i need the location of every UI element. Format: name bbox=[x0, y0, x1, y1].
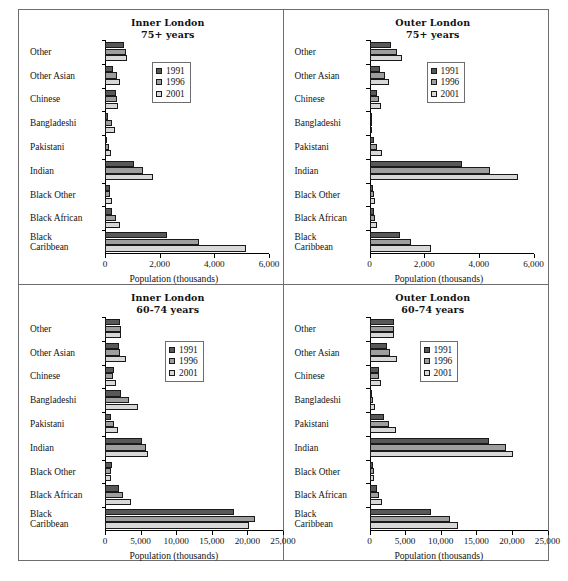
panel-title-region: Inner London bbox=[131, 292, 205, 303]
bar-1991 bbox=[105, 90, 116, 96]
bar-1991 bbox=[370, 185, 374, 191]
bar-1991 bbox=[370, 161, 463, 167]
bar-1996 bbox=[370, 397, 374, 403]
category-label: Other bbox=[30, 324, 105, 334]
bar-1991 bbox=[105, 462, 112, 468]
bar-1991 bbox=[370, 343, 387, 349]
category-label: Pakistani bbox=[30, 419, 105, 429]
bar-1991 bbox=[105, 485, 119, 491]
legend-item-1996: 1996 bbox=[424, 356, 453, 368]
legend-item-1991: 1991 bbox=[431, 65, 460, 77]
bar-2001 bbox=[105, 79, 120, 85]
legend-label: 1996 bbox=[179, 356, 198, 366]
bar-1996 bbox=[370, 49, 398, 55]
y-axis-tick bbox=[366, 507, 370, 508]
figure-container: Inner London75+ yearsOtherOther AsianChi… bbox=[0, 0, 568, 581]
y-axis-tick bbox=[366, 135, 370, 136]
bar-1996 bbox=[370, 120, 372, 126]
y-axis-tick bbox=[366, 460, 370, 461]
x-axis-tick-label: 20,000 bbox=[499, 536, 524, 546]
y-axis-tick bbox=[366, 111, 370, 112]
panel-title: Inner London75+ years bbox=[19, 17, 283, 41]
category-label: Pakistani bbox=[295, 142, 370, 152]
category-label: Other Asian bbox=[30, 71, 105, 81]
bar-1996 bbox=[105, 516, 255, 522]
category-label: Other bbox=[295, 47, 370, 57]
bar-1991 bbox=[105, 414, 111, 420]
bar-1996 bbox=[105, 444, 146, 450]
bar-2001 bbox=[105, 103, 118, 109]
x-axis-tick-label: 20,000 bbox=[235, 536, 260, 546]
x-axis-tick bbox=[247, 531, 248, 535]
category-label: Chinese bbox=[295, 94, 370, 104]
panel-title-agegroup: 60-74 years bbox=[318, 304, 549, 316]
legend: 199119962001 bbox=[420, 341, 459, 382]
category-label: Indian bbox=[295, 443, 370, 453]
legend-swatch-icon bbox=[169, 358, 175, 364]
bar-1996 bbox=[105, 239, 199, 245]
panel-title: Inner London60-74 years bbox=[19, 292, 283, 316]
category-label: Black Other bbox=[30, 467, 105, 477]
bar-1996 bbox=[105, 326, 121, 332]
bar-1996 bbox=[370, 516, 450, 522]
category-label: Black Other bbox=[30, 190, 105, 200]
bar-1991 bbox=[370, 390, 373, 396]
bar-1991 bbox=[370, 414, 385, 420]
bar-1991 bbox=[105, 367, 114, 373]
bar-1991 bbox=[370, 232, 400, 238]
bar-2001 bbox=[105, 245, 246, 251]
bar-2001 bbox=[370, 103, 381, 109]
panel-title-agegroup: 60-74 years bbox=[53, 304, 283, 316]
legend-label: 1996 bbox=[434, 356, 453, 366]
bar-1991 bbox=[105, 509, 234, 515]
x-axis-tick bbox=[548, 531, 549, 535]
bar-2001 bbox=[370, 451, 514, 457]
panel-inner-london-75plus: Inner London75+ yearsOtherOther AsianChi… bbox=[19, 10, 284, 285]
x-axis-tick-label: 10,000 bbox=[164, 536, 189, 546]
bar-2001 bbox=[370, 404, 376, 410]
y-axis-tick bbox=[366, 230, 370, 231]
y-axis-tick bbox=[102, 341, 106, 342]
y-axis-tick bbox=[102, 88, 106, 89]
legend-swatch-icon bbox=[169, 370, 175, 376]
bar-2001 bbox=[105, 150, 111, 156]
chart-grid: Inner London75+ yearsOtherOther AsianChi… bbox=[18, 9, 549, 561]
category-label: Other bbox=[295, 324, 370, 334]
x-axis-tick-label: 0 bbox=[367, 259, 372, 269]
legend-swatch-icon bbox=[424, 358, 430, 364]
category-label: Chinese bbox=[295, 371, 370, 381]
bar-1991 bbox=[370, 319, 395, 325]
legend-label: 1991 bbox=[434, 345, 453, 355]
category-label: Indian bbox=[295, 166, 370, 176]
x-axis-tick-label: 5,000 bbox=[130, 536, 151, 546]
x-axis-tick-label: 5,000 bbox=[395, 536, 416, 546]
legend-item-1996: 1996 bbox=[431, 77, 460, 89]
bar-2001 bbox=[105, 332, 121, 338]
bar-2001 bbox=[105, 380, 116, 386]
bar-1991 bbox=[370, 90, 377, 96]
panel-inner-london-60-74: Inner London60-74 yearsOtherOther AsianC… bbox=[19, 285, 284, 560]
bar-2001 bbox=[105, 522, 249, 528]
x-axis-tick bbox=[105, 254, 106, 258]
legend-label: 2001 bbox=[179, 368, 198, 378]
x-axis-tick bbox=[214, 254, 215, 258]
category-label: Chinese bbox=[30, 94, 105, 104]
legend-swatch-icon bbox=[431, 91, 437, 97]
x-axis-tick-label: 6,000 bbox=[259, 259, 280, 269]
bar-1996 bbox=[370, 72, 386, 78]
x-axis-tick bbox=[479, 254, 480, 258]
bar-2001 bbox=[370, 475, 375, 481]
legend-swatch-icon bbox=[424, 370, 430, 376]
legend-item-1996: 1996 bbox=[169, 356, 198, 368]
bar-1996 bbox=[370, 215, 375, 221]
bar-1991 bbox=[370, 462, 374, 468]
bar-1996 bbox=[105, 397, 129, 403]
panel-outer-london-75plus: Outer London75+ yearsOtherOther AsianChi… bbox=[284, 10, 549, 285]
bar-1991 bbox=[370, 208, 375, 214]
y-axis-tick bbox=[102, 135, 106, 136]
y-axis-tick bbox=[102, 412, 106, 413]
category-label: Black Caribbean bbox=[30, 232, 105, 252]
y-axis-tick bbox=[102, 206, 106, 207]
panel-title: Outer London60-74 years bbox=[284, 292, 549, 316]
bar-1996 bbox=[370, 239, 411, 245]
